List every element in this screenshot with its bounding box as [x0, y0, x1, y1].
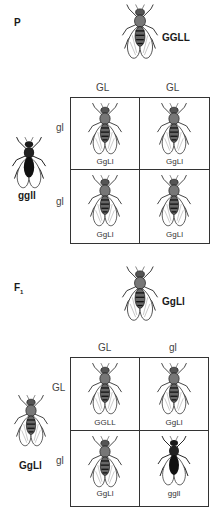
cell-genotype: GgLl: [140, 230, 209, 239]
punnett-cell: GgLl: [71, 170, 139, 243]
punnett-cell: ggll: [140, 431, 208, 500]
column-gamete-2: GL: [166, 82, 179, 93]
column-gamete-1: GL: [96, 82, 109, 93]
row-gamete-2: gl: [56, 196, 64, 207]
fly-dark-icon: [154, 434, 194, 488]
punnett-cell: GgLl: [140, 170, 209, 243]
f1-left-parent-fly-icon: [10, 393, 52, 449]
fly-wild-icon: [84, 361, 126, 417]
punnett-cell: GgLl: [71, 98, 139, 169]
f1-column-gamete-1: GL: [98, 342, 111, 353]
fly-wild-icon: [84, 434, 126, 490]
punnett-cell: GgLl: [140, 98, 209, 169]
row-gamete-1: gl: [56, 122, 64, 133]
cell-genotype: GgLl: [140, 418, 208, 427]
generation-label-f1: F1: [14, 282, 23, 295]
f1-left-parent-genotype: GgLl: [19, 460, 42, 471]
generation-label-p: P: [14, 17, 21, 28]
f1-row-gamete-2: gl: [56, 455, 64, 466]
fly-wild-icon: [84, 173, 126, 229]
punnett-cell: GGLL: [71, 358, 139, 430]
top-parent-fly-icon: [118, 2, 162, 62]
punnett-cell: GgLl: [71, 431, 139, 500]
fly-wild-icon: [84, 101, 126, 157]
top-parent-genotype: GGLL: [162, 32, 190, 43]
f1-top-parent-fly-icon: [118, 264, 162, 324]
fly-wild-icon: [153, 101, 195, 157]
f1-column-gamete-2: gl: [169, 342, 177, 353]
f1-top-parent-genotype: GgLl: [162, 296, 185, 307]
cell-genotype: ggll: [140, 489, 208, 498]
fly-wild-icon: [153, 361, 195, 417]
cell-genotype: GGLL: [71, 418, 139, 427]
cell-genotype: GgLl: [71, 489, 139, 498]
left-parent-fly-icon: [8, 135, 50, 191]
punnett-cell: GgLl: [140, 358, 208, 430]
left-parent-genotype: ggll: [18, 190, 36, 201]
fly-wild-icon: [153, 173, 195, 229]
f1-row-gamete-1: GL: [52, 382, 65, 393]
cell-genotype: GgLl: [71, 157, 139, 166]
cell-genotype: GgLl: [71, 230, 139, 239]
cell-genotype: GgLl: [140, 157, 209, 166]
